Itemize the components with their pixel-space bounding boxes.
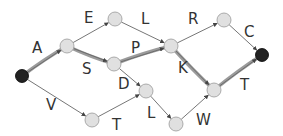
edge-label: L [147, 104, 156, 122]
state-node [169, 117, 183, 131]
edge-label: R [188, 10, 198, 28]
highlighted-route [22, 46, 262, 90]
highlighted-path [22, 46, 262, 90]
edge-label: V [46, 96, 57, 114]
edge-label: W [196, 111, 211, 129]
state-node [217, 13, 231, 27]
state-node [60, 39, 74, 53]
edge-p-4 [121, 48, 164, 62]
edge-label: T [239, 76, 250, 94]
edge-label: P [131, 39, 140, 57]
state-node [108, 12, 122, 26]
edge-t-9 [98, 95, 139, 117]
edge-label: K [178, 59, 189, 77]
state-node [164, 39, 178, 53]
end-node [256, 49, 269, 62]
state-node [207, 83, 221, 97]
path-diagram: AESLPRCDVTLWKT [0, 0, 283, 136]
edge-label: L [141, 10, 150, 28]
edge-label: T [111, 116, 122, 134]
edge-label: D [118, 75, 130, 93]
state-node [85, 113, 99, 127]
start-node [16, 70, 29, 83]
edge-label: C [244, 23, 254, 41]
state-node [139, 84, 153, 98]
edge-t-13 [220, 59, 257, 86]
edge-labels: AESLPRCDVTLWKT [32, 9, 254, 134]
edge-label: E [84, 9, 93, 27]
edge-label: S [82, 60, 92, 78]
edge-label: A [32, 39, 43, 57]
edges [27, 22, 256, 119]
state-node [107, 57, 121, 71]
edge-v-8 [28, 79, 86, 116]
